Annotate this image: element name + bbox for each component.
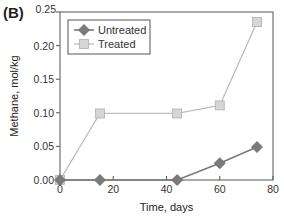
y-axis-label: Methane, mol/kg — [8, 55, 20, 136]
x-tick-label: 80 — [267, 183, 279, 195]
x-tick-label: 40 — [161, 183, 173, 195]
x-tick-label: 60 — [214, 183, 226, 195]
square-marker-icon — [253, 18, 262, 27]
methane-line-chart: 0204060800.000.050.100.150.200.25 Untrea… — [0, 0, 284, 220]
x-tick-label: 20 — [107, 183, 119, 195]
legend-label: Untreated — [98, 24, 146, 36]
x-axis-label: Time, days — [140, 201, 194, 213]
y-tick-label: 0.25 — [36, 3, 57, 15]
diamond-marker-icon — [214, 158, 225, 169]
y-tick-label: 0.10 — [34, 107, 55, 119]
legend-item-treated: Treated — [74, 38, 136, 50]
y-tick-label: 0.00 — [34, 174, 55, 186]
diamond-marker-icon — [252, 142, 263, 153]
diamond-marker-icon — [172, 175, 183, 186]
series-untreated — [55, 142, 263, 186]
y-tick-label: 0.05 — [34, 140, 55, 152]
square-marker-icon — [173, 109, 182, 118]
square-marker-icon — [215, 101, 224, 110]
chart-legend: UntreatedTreated — [68, 20, 150, 54]
square-legend-icon — [80, 40, 89, 49]
square-marker-icon — [95, 109, 104, 118]
legend-item-untreated: Untreated — [74, 24, 146, 36]
y-tick-label: 0.15 — [34, 73, 55, 85]
diamond-marker-icon — [94, 175, 105, 186]
y-tick-label: 0.20 — [34, 40, 55, 52]
legend-label: Treated — [98, 38, 136, 50]
series-line — [60, 147, 257, 180]
